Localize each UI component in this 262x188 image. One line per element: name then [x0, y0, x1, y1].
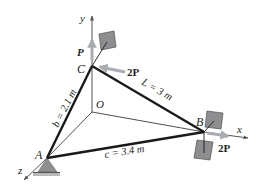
force-2P-C-arrow: [100, 67, 125, 72]
y-axis-label: y: [79, 12, 85, 24]
force-P-label: P: [77, 46, 84, 58]
force-2P-B-label: 2P: [218, 142, 231, 154]
member-AC: [47, 66, 92, 158]
force-2P-B-arrow: [207, 133, 228, 136]
x-axis-label: x: [236, 123, 242, 135]
point-A-label: A: [34, 148, 43, 162]
member-c-label: c = 3.4 m: [104, 143, 146, 160]
plate-C-link: [92, 42, 107, 66]
member-L-label: L = 3 m: [139, 76, 175, 103]
truss-diagram: y x z P 2P 2P C O A B b = 2.1 m L = 3 m …: [0, 0, 262, 188]
z-axis-label: z: [17, 164, 23, 176]
plate-B-top: [205, 111, 223, 129]
plate-C: [99, 31, 116, 50]
ground-line-A: [33, 172, 60, 173]
point-O-label: O: [96, 98, 104, 110]
point-C-label: C: [77, 62, 86, 76]
plate-B-bottom: [194, 140, 213, 160]
point-B-label: B: [196, 115, 204, 129]
force-2P-C-label: 2P: [127, 66, 140, 78]
